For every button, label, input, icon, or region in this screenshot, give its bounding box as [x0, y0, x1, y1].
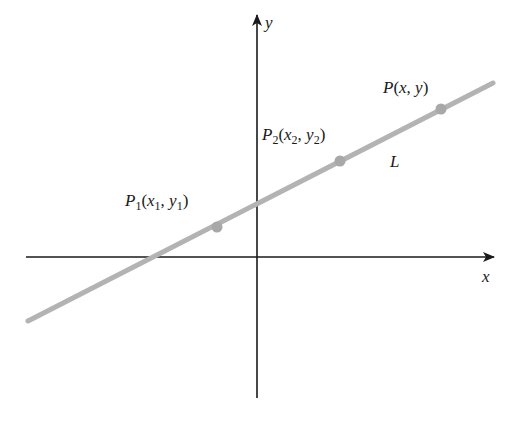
point-p-label: P(x, y)	[382, 78, 428, 97]
x-axis-label: x	[481, 267, 490, 286]
point-p1-label: P1(x1, y1)	[124, 191, 188, 213]
y-axis-label: y	[263, 13, 273, 32]
point-p2-label: P2(x2, y2)	[261, 125, 325, 147]
coordinate-diagram: y x L P1(x1, y1) P2(x2, y2) P(x, y)	[0, 0, 522, 423]
point-p1	[212, 222, 223, 233]
point-p	[436, 104, 447, 115]
line-L-label: L	[389, 152, 399, 171]
point-p2	[335, 156, 346, 167]
line-L	[28, 83, 493, 321]
